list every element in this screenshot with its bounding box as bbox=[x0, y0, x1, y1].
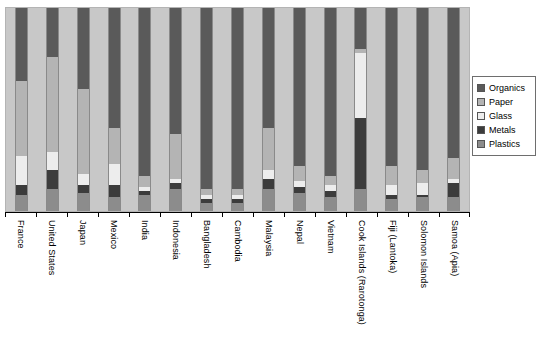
tick-cell bbox=[377, 213, 408, 218]
tick-cell bbox=[253, 213, 284, 218]
bar-segment-metals[interactable] bbox=[78, 185, 89, 193]
legend-item-paper[interactable]: Paper bbox=[477, 95, 531, 109]
tick-cell bbox=[346, 213, 377, 218]
bar-segment-plastics[interactable] bbox=[16, 195, 27, 211]
bar-segment-plastics[interactable] bbox=[417, 197, 428, 211]
label-cell: Samoa (Apia) bbox=[439, 220, 470, 348]
bar-segment-glass[interactable] bbox=[16, 156, 27, 184]
tick-cell bbox=[67, 213, 98, 218]
bar-segment-paper[interactable] bbox=[325, 176, 336, 184]
stacked-bar[interactable] bbox=[15, 8, 28, 211]
bar-slot bbox=[222, 8, 253, 211]
category-label: Samoa (Apia) bbox=[450, 220, 459, 276]
tick-mark bbox=[191, 213, 192, 217]
tick-mark bbox=[222, 213, 223, 217]
bar-segment-organics[interactable] bbox=[263, 8, 274, 128]
stacked-bar-chart: FranceUnited StatesJapanMexicoIndiaIndon… bbox=[0, 0, 541, 351]
bar-segment-paper[interactable] bbox=[263, 128, 274, 171]
legend-item-organics[interactable]: Organics bbox=[477, 81, 531, 95]
bar-segment-plastics[interactable] bbox=[47, 189, 58, 211]
bar-segment-glass[interactable] bbox=[47, 152, 58, 170]
bar-segment-plastics[interactable] bbox=[355, 189, 366, 211]
stacked-bar[interactable] bbox=[138, 8, 151, 211]
bar-slot bbox=[345, 8, 376, 211]
bar-segment-plastics[interactable] bbox=[139, 195, 150, 211]
bar-segment-paper[interactable] bbox=[386, 166, 397, 184]
bar-segment-metals[interactable] bbox=[109, 185, 120, 197]
bar-segment-organics[interactable] bbox=[448, 8, 459, 158]
stacked-bar[interactable] bbox=[385, 8, 398, 211]
category-label: Fiji (Lantoka) bbox=[388, 220, 397, 273]
bar-segment-glass[interactable] bbox=[386, 185, 397, 195]
bar-segment-organics[interactable] bbox=[78, 8, 89, 89]
bar-segment-metals[interactable] bbox=[47, 170, 58, 188]
bar-segment-glass[interactable] bbox=[78, 174, 89, 184]
bar-slot bbox=[129, 8, 160, 211]
stacked-bar[interactable] bbox=[231, 8, 244, 211]
bar-segment-paper[interactable] bbox=[417, 170, 428, 182]
bar-segment-organics[interactable] bbox=[109, 8, 120, 128]
stacked-bar[interactable] bbox=[416, 8, 429, 211]
stacked-bar[interactable] bbox=[354, 8, 367, 211]
bar-segment-paper[interactable] bbox=[294, 166, 305, 180]
bar-segment-glass[interactable] bbox=[109, 164, 120, 184]
bar-segment-glass[interactable] bbox=[355, 53, 366, 118]
bar-segment-paper[interactable] bbox=[448, 158, 459, 178]
label-cell: Vietnam bbox=[315, 220, 346, 348]
bar-segment-paper[interactable] bbox=[47, 57, 58, 152]
bar-segment-organics[interactable] bbox=[325, 8, 336, 176]
stacked-bar[interactable] bbox=[46, 8, 59, 211]
legend-swatch-icon bbox=[477, 98, 485, 106]
bar-segment-organics[interactable] bbox=[47, 8, 58, 57]
bar-segment-plastics[interactable] bbox=[448, 197, 459, 211]
bar-segment-plastics[interactable] bbox=[78, 193, 89, 211]
bar-segment-glass[interactable] bbox=[417, 183, 428, 195]
bar-segment-paper[interactable] bbox=[170, 134, 181, 179]
label-cell: Malaysia bbox=[253, 220, 284, 348]
stacked-bar[interactable] bbox=[200, 8, 213, 211]
bar-segment-organics[interactable] bbox=[386, 8, 397, 166]
bar-segment-organics[interactable] bbox=[417, 8, 428, 170]
stacked-bar[interactable] bbox=[108, 8, 121, 211]
bar-segment-organics[interactable] bbox=[355, 8, 366, 49]
bar-segment-metals[interactable] bbox=[355, 118, 366, 189]
bar-segment-paper[interactable] bbox=[78, 89, 89, 174]
bar-segment-plastics[interactable] bbox=[386, 199, 397, 211]
stacked-bar[interactable] bbox=[262, 8, 275, 211]
bar-segment-plastics[interactable] bbox=[170, 189, 181, 211]
bar-segment-organics[interactable] bbox=[170, 8, 181, 134]
stacked-bar[interactable] bbox=[324, 8, 337, 211]
bar-segment-paper[interactable] bbox=[16, 81, 27, 156]
legend-item-metals[interactable]: Metals bbox=[477, 123, 531, 137]
bar-segment-plastics[interactable] bbox=[201, 203, 212, 211]
legend-label: Plastics bbox=[489, 140, 520, 149]
stacked-bar[interactable] bbox=[169, 8, 182, 211]
bar-segment-metals[interactable] bbox=[263, 179, 274, 189]
bar-segment-organics[interactable] bbox=[232, 8, 243, 189]
bar-segment-organics[interactable] bbox=[16, 8, 27, 81]
bar-segment-paper[interactable] bbox=[109, 128, 120, 165]
bar-segment-organics[interactable] bbox=[139, 8, 150, 176]
tick-cell bbox=[160, 213, 191, 218]
bar-segment-plastics[interactable] bbox=[325, 197, 336, 211]
bar-segment-glass[interactable] bbox=[263, 170, 274, 178]
tick-mark bbox=[439, 213, 440, 217]
legend-item-plastics[interactable]: Plastics bbox=[477, 137, 531, 151]
bar-segment-plastics[interactable] bbox=[232, 203, 243, 211]
legend-item-glass[interactable]: Glass bbox=[477, 109, 531, 123]
bar-segment-plastics[interactable] bbox=[109, 197, 120, 211]
bar-segment-paper[interactable] bbox=[139, 176, 150, 186]
stacked-bar[interactable] bbox=[77, 8, 90, 211]
bar-segment-organics[interactable] bbox=[294, 8, 305, 166]
bar-segment-metals[interactable] bbox=[16, 185, 27, 195]
bar-segment-metals[interactable] bbox=[448, 183, 459, 197]
stacked-bar[interactable] bbox=[447, 8, 460, 211]
bar-segment-organics[interactable] bbox=[201, 8, 212, 189]
bar-slot bbox=[253, 8, 284, 211]
bar-slot bbox=[68, 8, 99, 211]
bar-segment-plastics[interactable] bbox=[294, 193, 305, 211]
tick-cell bbox=[5, 213, 36, 218]
tick-cell bbox=[191, 213, 222, 218]
bar-segment-plastics[interactable] bbox=[263, 189, 274, 211]
stacked-bar[interactable] bbox=[293, 8, 306, 211]
